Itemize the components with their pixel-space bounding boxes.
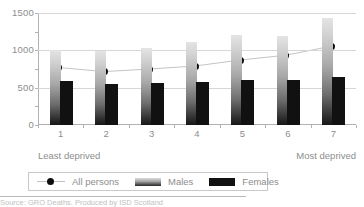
legend-item-all-persons: All persons <box>37 173 119 190</box>
plot-area <box>38 13 356 125</box>
y-axis-tick-labels: 050010001500 <box>0 0 34 132</box>
least-deprived-label: Least deprived <box>38 150 100 162</box>
bar-females <box>105 84 118 125</box>
bar-females <box>60 81 73 125</box>
y-minor-tick-mark <box>35 106 38 107</box>
legend-item-males: Males <box>135 173 193 190</box>
bar-group <box>141 13 164 125</box>
legend-label-males: Males <box>168 176 193 187</box>
filled-circle-marker-icon <box>37 177 65 186</box>
most-deprived-label: Most deprived <box>296 150 356 162</box>
source-footnote: Source: GRO Deaths. Produced by ISD Scot… <box>0 198 364 207</box>
bar-group <box>50 13 73 125</box>
x-tick-mark <box>356 125 357 128</box>
x-tick-label: 6 <box>273 128 303 139</box>
bar-group <box>277 13 300 125</box>
bar-group <box>186 13 209 125</box>
bar-females <box>332 77 345 125</box>
y-tick-label: 500 <box>0 83 34 93</box>
plot-wrapper: 050010001500 1234567 Least deprived Most… <box>0 0 364 132</box>
x-tick-label: 4 <box>182 128 212 139</box>
bar-group <box>95 13 118 125</box>
legend-item-females: Females <box>209 173 278 190</box>
bar-group <box>322 13 345 125</box>
chart-legend: All persons Males Females <box>28 172 268 191</box>
x-axis-tick-labels: 1234567 <box>38 128 356 142</box>
bar-females <box>241 80 254 125</box>
black-bar-swatch-icon <box>209 178 235 186</box>
y-tick-mark <box>35 13 38 14</box>
deprivation-scale-annotations: Least deprived Most deprived <box>38 150 358 164</box>
deprivation-mortality-chart: 050010001500 1234567 Least deprived Most… <box>0 0 364 207</box>
x-tick-label: 3 <box>137 128 167 139</box>
x-tick-label: 2 <box>91 128 121 139</box>
bar-group <box>231 13 254 125</box>
bar-females <box>287 80 300 125</box>
y-tick-mark <box>35 50 38 51</box>
footnote-divider <box>0 196 246 197</box>
x-tick-label: 7 <box>318 128 348 139</box>
bar-females <box>196 82 209 125</box>
legend-label-females: Females <box>242 176 278 187</box>
y-tick-label: 0 <box>0 120 34 130</box>
y-minor-tick-mark <box>35 69 38 70</box>
y-tick-label: 1000 <box>0 45 34 55</box>
x-tick-label: 5 <box>227 128 257 139</box>
y-tick-mark <box>35 88 38 89</box>
y-minor-tick-mark <box>35 32 38 33</box>
y-tick-label: 1500 <box>0 8 34 18</box>
x-tick-label: 1 <box>46 128 76 139</box>
legend-label-all-persons: All persons <box>72 176 119 187</box>
bar-females <box>151 83 164 125</box>
gradient-bar-swatch-icon <box>135 178 161 186</box>
